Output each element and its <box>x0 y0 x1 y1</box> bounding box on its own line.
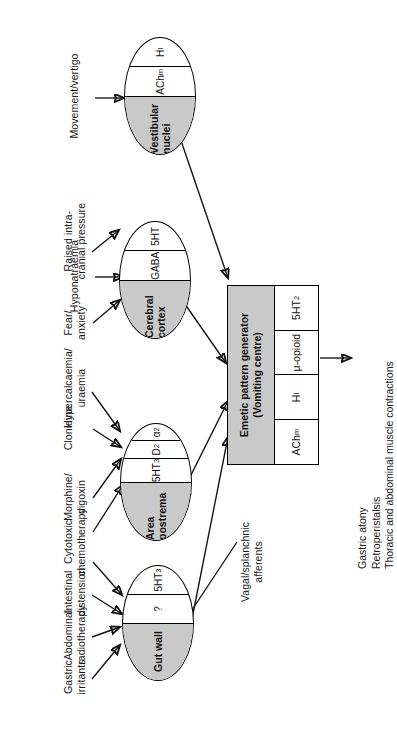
arrow-fear-to-cortex <box>93 300 120 323</box>
gut-wall-receptor-row: ? 5HT3 <box>123 566 193 623</box>
input-label-clonidine: Clonidine <box>62 395 75 461</box>
receptor-question-mark: ? <box>123 594 193 623</box>
receptor-d2: D2 <box>121 440 191 457</box>
organ-vestibular-nuclei[interactable]: Vestibular nuclei AChm HI <box>124 37 196 155</box>
receptor-achm-vestibular: AChm <box>125 67 195 97</box>
leader-vagal-splanchnic <box>186 542 237 619</box>
organ-gut-wall-label: Gut wall <box>123 623 193 680</box>
arrow-intestinal-distension-to-gut-wall <box>92 595 122 614</box>
arrow-clonidine-to-area-postrema <box>93 429 121 447</box>
vomiting-centre-box[interactable]: Emetic pattern generator (Vomiting centr… <box>227 285 319 465</box>
input-label-raised-icp: Raised intra- cranial pressure <box>62 201 87 281</box>
organ-cerebral-cortex-label: Cerebral cortex <box>120 280 190 338</box>
vomiting-centre-receptor-row: AChm HI μ-opioid 5HT2 <box>275 286 318 464</box>
arrow-chemo-to-gut-wall <box>93 562 122 595</box>
organ-gut-wall[interactable]: Gut wall ? 5HT3 <box>122 565 194 681</box>
organ-area-postrema-label: Area postrema <box>121 482 191 540</box>
vomiting-centre-title: Emetic pattern generator (Vomiting centr… <box>228 286 275 464</box>
arrow-icp-to-cortex <box>92 230 119 252</box>
receptor-gaba: GABA <box>120 251 190 281</box>
organ-cerebral-cortex[interactable]: Cerebral cortex GABA 5HT <box>119 221 191 339</box>
input-label-movement-vertigo: Movement/vertigo <box>68 50 81 142</box>
input-label-morphine-digoxin: Morphine/ digoxin <box>62 461 87 533</box>
outputs-label: Gastric atony Retroperistalsis Thoracic … <box>356 139 397 569</box>
arrow-gastric-irritants-to-gut-wall <box>92 645 120 679</box>
area-postrema-receptor-row: 5HT3 D2 α2 <box>121 424 191 482</box>
receptor-5ht-cortex: 5HT <box>120 222 190 251</box>
cerebral-cortex-receptor-row: GABA 5HT <box>120 222 190 280</box>
receptor-mu-opioid: μ-opioid <box>275 330 318 375</box>
pathway-label-vagal-splanchnic: Vagal/splanchnic afferents <box>239 510 264 614</box>
organ-area-postrema[interactable]: Area postrema 5HT3 D2 α2 <box>120 423 192 541</box>
arrow-morphine-to-area-postrema <box>93 459 121 498</box>
receptor-5ht3-area-postrema: 5HT3 <box>121 458 191 482</box>
organ-vestibular-nuclei-label: Vestibular nuclei <box>125 96 195 154</box>
arrow-hypercalcaemia-to-area-postrema <box>92 392 120 431</box>
receptor-5ht2: 5HT2 <box>275 286 318 330</box>
receptor-alpha2: α2 <box>121 424 191 440</box>
arrow-abdominal-radiotherapy-to-gut-wall <box>92 627 120 637</box>
arrow-area-postrema-to-vomiting-centre <box>187 401 228 483</box>
receptor-h1-vomiting-centre: HI <box>275 375 318 420</box>
arrow-chemo-to-area-postrema <box>93 485 123 532</box>
receptor-5ht3-gut: 5HT3 <box>123 566 193 594</box>
arrow-gut-wall-to-vomiting-centre <box>191 437 228 624</box>
receptor-h1-vestibular: HI <box>125 38 195 67</box>
vestibular-nuclei-receptor-row: AChm HI <box>125 38 195 96</box>
receptor-achm-vomiting-centre: AChm <box>275 419 318 464</box>
